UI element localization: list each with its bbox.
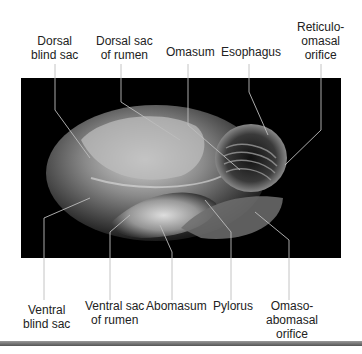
label-dorsal-sac-of-rumen: Dorsal sac of rumen bbox=[96, 34, 153, 62]
label-dorsal-blind-sac: Dorsal blind sac bbox=[31, 34, 78, 62]
label-ventral-sac-of-rumen: Ventral sac of rumen bbox=[85, 299, 144, 327]
label-ventral-blind-sac: Ventral blind sac bbox=[23, 303, 70, 331]
label-abomasum: Abomasum bbox=[146, 299, 207, 313]
label-esophagus: Esophagus bbox=[221, 45, 281, 59]
label-reticulo-omasal-orifice: Reticulo- omasal orifice bbox=[297, 20, 344, 62]
label-pylorus: Pylorus bbox=[213, 299, 253, 313]
label-omaso-abomasal-orifice: Omaso- abomasal orifice bbox=[266, 299, 318, 341]
stomach-illustration bbox=[21, 78, 341, 258]
bottom-divider bbox=[0, 341, 362, 346]
stomach-photo bbox=[21, 78, 341, 258]
label-omasum: Omasum bbox=[166, 45, 215, 59]
